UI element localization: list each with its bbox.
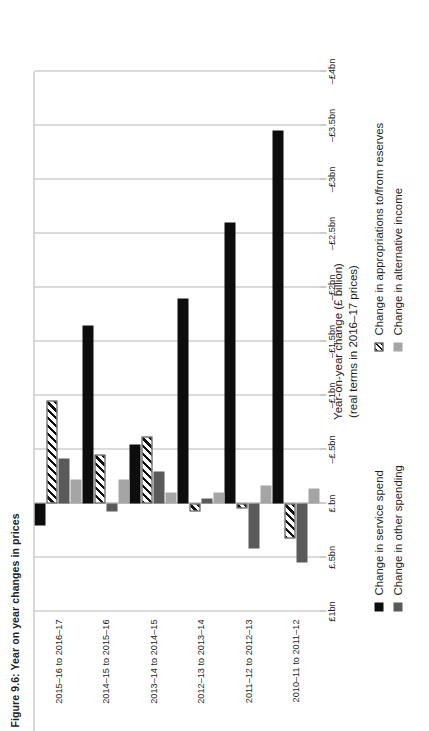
- gridline-10: [34, 70, 319, 71]
- category-axis-label-1: 2011–12 to 2012–13: [243, 613, 253, 703]
- bar-alt-1: [260, 485, 271, 503]
- legend-swatch-appropriations-icon: [374, 342, 383, 351]
- figure-title: Figure 9.6: Year on year changes in pric…: [8, 513, 20, 727]
- tick-mark-10: [319, 70, 326, 71]
- category-axis-rule: [33, 71, 34, 731]
- bar-service-5: [34, 503, 45, 525]
- legend-item-other: Change in other spending: [391, 465, 403, 611]
- bar-alt-4: [118, 479, 129, 503]
- category-axis-label-2: 2012–13 to 2013–14: [195, 613, 205, 703]
- legend-label-alternative-income: Change in alternative income: [391, 187, 403, 335]
- legend-swatch-service-icon: [374, 602, 383, 611]
- bar-approp-5: [46, 400, 57, 503]
- bar-alt-3: [165, 492, 176, 503]
- tick-mark-7: [319, 232, 326, 233]
- plot-area: £1bn£.5bn£.bn–£.5bn–£1bn–£1.5bn–£2bn–£2.…: [34, 71, 319, 611]
- legend-swatch-other-icon: [393, 602, 402, 611]
- bar-approp-3: [141, 436, 152, 503]
- bar-other-5: [58, 458, 69, 503]
- legend-swatch-alternative-income-icon: [393, 342, 402, 351]
- value-axis-title: Year-on-year change (£ billion) (real te…: [330, 71, 360, 611]
- tick-mark-0: [319, 610, 326, 611]
- bar-approp-2: [189, 503, 200, 511]
- bar-other-0: [296, 503, 307, 562]
- gridline-9: [34, 124, 319, 125]
- bar-service-1: [224, 222, 235, 503]
- bar-approp-0: [284, 503, 295, 538]
- legend-label-service: Change in service spend: [372, 470, 384, 595]
- tick-mark-2: [319, 502, 326, 503]
- value-axis-title-line2: (real terms in 2016–17 prices): [345, 71, 360, 611]
- tick-mark-1: [319, 556, 326, 557]
- tick-mark-3: [319, 448, 326, 449]
- tick-mark-6: [319, 286, 326, 287]
- bar-alt-0: [308, 488, 319, 503]
- category-axis-label-0: 2010–11 to 2011–12: [290, 613, 300, 702]
- bar-other-4: [106, 503, 117, 511]
- category-axis-label-4: 2014–15 to 2015–16: [100, 613, 110, 703]
- legend-column-right: Change in appropriations to/from reserve…: [372, 122, 410, 351]
- gridline-1: [34, 556, 319, 557]
- legend-item-alternative-income: Change in alternative income: [391, 122, 403, 351]
- bar-alt-5: [70, 479, 81, 503]
- tick-mark-5: [319, 340, 326, 341]
- bar-approp-1: [236, 503, 247, 508]
- bar-other-3: [153, 471, 164, 503]
- category-axis-label-3: 2013–14 to 2014–15: [148, 613, 158, 703]
- bar-other-1: [248, 503, 259, 548]
- bar-other-2: [201, 498, 212, 503]
- legend-item-appropriations: Change in appropriations to/from reserve…: [372, 122, 384, 351]
- category-axis-label-5: 2015–16 to 2016–17: [53, 613, 63, 703]
- bar-service-4: [82, 325, 93, 503]
- legend-column-left: Change in service spend Change in other …: [372, 465, 410, 611]
- gridline-0: [34, 610, 319, 611]
- rotated-figure: Figure 9.6: Year on year changes in pric…: [0, 0, 429, 731]
- bar-service-3: [129, 444, 140, 503]
- bar-approp-4: [94, 454, 105, 503]
- figure-canvas: Figure 9.6: Year on year changes in pric…: [0, 0, 429, 731]
- legend-label-appropriations: Change in appropriations to/from reserve…: [372, 122, 384, 335]
- bar-alt-2: [213, 492, 224, 503]
- tick-mark-8: [319, 178, 326, 179]
- bar-service-2: [177, 298, 188, 503]
- tick-mark-4: [319, 394, 326, 395]
- legend-label-other: Change in other spending: [391, 465, 403, 595]
- legend-item-service: Change in service spend: [372, 465, 384, 611]
- value-axis-title-line1: Year-on-year change (£ billion): [330, 71, 345, 611]
- bar-service-0: [272, 130, 283, 503]
- tick-mark-9: [319, 124, 326, 125]
